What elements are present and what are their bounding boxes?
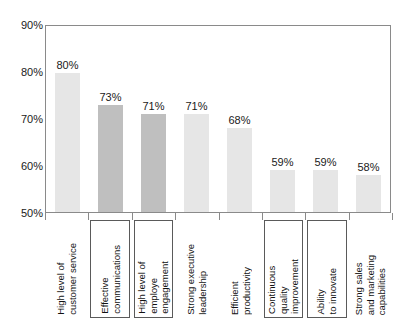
y-axis-tick-label: 50%	[3, 208, 43, 219]
x-axis-ticks	[45, 213, 392, 220]
bar-value-label: 73%	[89, 92, 132, 103]
bar-slot: 71%	[132, 26, 175, 212]
bar-slot: 68%	[218, 26, 261, 212]
category-label-text: Ability to innovate	[314, 265, 339, 317]
x-axis-tick	[262, 213, 263, 220]
bars-layer: 80%73%71%71%68%59%59%58%	[46, 26, 390, 212]
x-axis-tick	[45, 213, 46, 220]
bar	[141, 114, 165, 212]
category-label-text: Efficient productivity	[228, 264, 253, 318]
bar	[98, 105, 122, 212]
x-axis-category: Efficient productivity	[219, 220, 262, 323]
bar	[270, 170, 294, 212]
bar-value-label: 58%	[347, 162, 390, 173]
category-label-box: Continuous quality improvement	[264, 220, 303, 318]
bar-value-label: 68%	[218, 115, 261, 126]
bar-chart: 90%80%70%60%50% 80%73%71%71%68%59%59%58%…	[0, 0, 402, 323]
category-label-text: High level of customer service	[54, 240, 79, 318]
category-label-box: High level of employe engagement	[134, 220, 173, 318]
bar	[227, 128, 251, 212]
y-axis-tick-label: 80%	[3, 67, 43, 78]
x-axis-tick	[392, 213, 393, 220]
bar-slot: 71%	[175, 26, 218, 212]
bar-value-label: 59%	[304, 157, 347, 168]
x-axis-tick	[219, 213, 220, 220]
category-label-text: High level of employe engagement	[135, 258, 172, 317]
bar	[356, 175, 380, 212]
x-axis-category: Continuous quality improvement	[262, 220, 305, 323]
category-label-wrap: Strong sales and marketing capabilities	[351, 220, 390, 318]
bar-value-label: 80%	[46, 60, 89, 71]
x-axis-category: Ability to innovate	[305, 220, 348, 323]
x-axis-tick	[132, 213, 133, 220]
x-axis-tick	[305, 213, 306, 220]
category-label-box: Effective communications	[90, 220, 129, 318]
bar-slot: 80%	[46, 26, 89, 212]
bar-slot: 59%	[304, 26, 347, 212]
bar	[55, 73, 79, 213]
x-axis-tick	[175, 213, 176, 220]
plot-area: 80%73%71%71%68%59%59%58%	[45, 25, 391, 213]
x-axis-category: High level of employe engagement	[132, 220, 175, 323]
x-axis-category-labels: High level of customer serviceEffective …	[45, 220, 392, 323]
category-label-text: Strong sales and marketing capabilities	[352, 252, 389, 318]
category-label-text: Continuous quality improvement	[265, 256, 302, 317]
category-label-wrap: Strong executive leadership	[177, 220, 216, 318]
x-axis-category: Strong sales and marketing capabilities	[349, 220, 392, 323]
bar-value-label: 59%	[261, 157, 304, 168]
bar-slot: 58%	[347, 26, 390, 212]
category-label-wrap: High level of customer service	[47, 220, 86, 318]
bar-value-label: 71%	[132, 101, 175, 112]
y-axis-tick-label: 90%	[3, 20, 43, 31]
x-axis-category: Strong executive leadership	[175, 220, 218, 323]
y-axis-tick-label: 70%	[3, 114, 43, 125]
bar	[313, 170, 337, 212]
bar-slot: 59%	[261, 26, 304, 212]
x-axis-tick	[88, 213, 89, 220]
x-axis-tick	[349, 213, 350, 220]
bar-value-label: 71%	[175, 101, 218, 112]
y-axis: 90%80%70%60%50%	[0, 0, 43, 323]
x-axis-category: High level of customer service	[45, 220, 88, 323]
category-label-wrap: Efficient productivity	[221, 220, 260, 318]
x-axis-category: Effective communications	[88, 220, 131, 323]
category-label-box: Ability to innovate	[307, 220, 346, 318]
category-label-text: Effective communications	[98, 242, 123, 317]
category-label-text: Strong executive leadership	[184, 241, 209, 318]
bar-slot: 73%	[89, 26, 132, 212]
y-axis-tick-label: 60%	[3, 161, 43, 172]
bar	[184, 114, 208, 212]
